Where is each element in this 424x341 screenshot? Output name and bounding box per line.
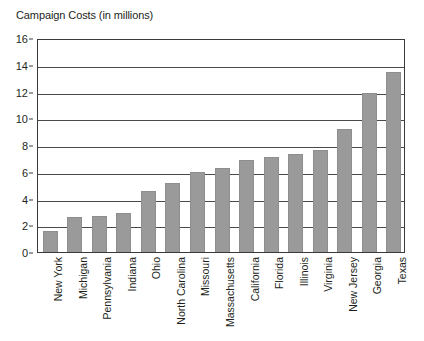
bar — [43, 231, 58, 252]
x-tick-label: New York — [53, 257, 64, 301]
x-tick-label: Ohio — [151, 257, 162, 279]
bar — [116, 213, 131, 252]
y-tick-mark — [29, 253, 33, 254]
x-tick-label: Georgia — [372, 257, 383, 294]
x-tick-label: Michigan — [78, 257, 89, 299]
y-tick-label: 6 — [22, 167, 28, 179]
y-axis: 0246810121416 — [0, 39, 33, 253]
x-tick-label: North Carolina — [176, 257, 187, 325]
y-tick-label: 8 — [22, 140, 28, 152]
y-tick-label: 16 — [16, 33, 28, 45]
bar — [239, 160, 254, 252]
bar — [92, 216, 107, 252]
bar — [313, 150, 328, 252]
x-tick-label: Indiana — [127, 257, 138, 291]
bar — [141, 191, 156, 252]
bar — [362, 93, 377, 252]
bar — [386, 72, 401, 252]
x-tick-label: California — [250, 257, 261, 301]
bar — [67, 217, 82, 252]
y-tick-mark — [29, 92, 33, 93]
x-tick-label: Missouri — [200, 257, 211, 296]
x-axis: New YorkMichiganPennsylvaniaIndianaOhioN… — [37, 257, 405, 341]
y-tick-mark — [29, 146, 33, 147]
chart-title: Campaign Costs (in millions) — [16, 9, 153, 21]
plot-area — [37, 39, 405, 253]
y-tick-label: 2 — [22, 220, 28, 232]
x-tick-label: Illinois — [299, 257, 310, 286]
bar — [264, 157, 279, 252]
y-tick-mark — [29, 226, 33, 227]
x-tick-label: Massachusetts — [225, 257, 236, 327]
y-tick-mark — [29, 65, 33, 66]
x-tick-label: Florida — [274, 257, 285, 289]
campaign-costs-bar-chart: Campaign Costs (in millions) 02468101214… — [0, 0, 424, 341]
bar — [190, 172, 205, 252]
y-tick-mark — [29, 199, 33, 200]
y-tick-mark — [29, 172, 33, 173]
bars-layer — [38, 40, 404, 252]
bar — [215, 168, 230, 252]
bar — [337, 129, 352, 252]
y-tick-label: 0 — [22, 247, 28, 259]
x-tick-label: Texas — [397, 257, 408, 284]
x-tick-label: Pennsylvania — [102, 257, 113, 319]
y-tick-mark — [29, 39, 33, 40]
bar — [288, 154, 303, 252]
x-tick-label: New Jersey — [348, 257, 359, 312]
x-tick-label: Virginia — [323, 257, 334, 292]
bar — [165, 183, 180, 252]
y-tick-label: 14 — [16, 60, 28, 72]
y-tick-label: 4 — [22, 194, 28, 206]
y-tick-mark — [29, 119, 33, 120]
y-tick-label: 10 — [16, 113, 28, 125]
y-tick-label: 12 — [16, 87, 28, 99]
